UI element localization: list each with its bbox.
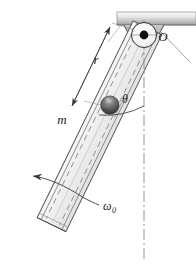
ceiling-support [117, 12, 196, 25]
diagram-canvas: r m θ ω 0 [0, 0, 196, 264]
mass-label: m [57, 112, 66, 127]
rotation-arrow-tail [84, 198, 99, 205]
radius-label: r [93, 52, 99, 67]
physics-diagram-rotating-tube: r m θ ω 0 [0, 0, 196, 264]
tube-assembly [37, 21, 162, 232]
omega-label: ω [103, 199, 111, 213]
tube-inner-wall-left [41, 23, 137, 220]
pivot-dot [140, 31, 149, 40]
angle-label: θ [122, 92, 128, 106]
omega-subscript-label: 0 [112, 206, 116, 215]
pivot-label: O [158, 29, 168, 44]
ceiling-slab [117, 12, 196, 25]
mass-label-group: m [57, 112, 66, 127]
